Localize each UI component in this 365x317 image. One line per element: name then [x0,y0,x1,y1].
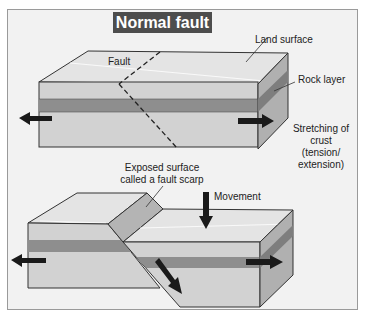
stretching-line-4: extension) [288,159,354,171]
top-block [19,38,295,149]
stretching-line-1: Stretching of [288,123,354,135]
fault-scarp-label: Exposed surface called a fault scarp [112,162,212,186]
scarp-line-2: called a fault scarp [112,174,212,186]
rock-layer-label: Rock layer [298,74,345,86]
stretching-line-3: (tension/ [288,147,354,159]
stretching-line-2: crust [288,135,354,147]
scarp-line-1: Exposed surface [112,162,212,174]
diagram-title: Normal fault [113,12,212,33]
stretching-label: Stretching of crust (tension/ extension) [288,123,354,171]
movement-label: Movement [214,191,261,203]
fault-label: Fault [108,56,130,68]
bottom-block [11,186,293,307]
land-surface-label: Land surface [255,34,313,46]
